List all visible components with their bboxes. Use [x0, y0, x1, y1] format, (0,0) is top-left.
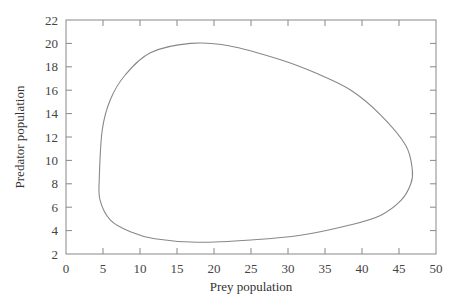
plot-frame — [66, 20, 436, 254]
y-axis-title: Predator population — [12, 85, 27, 188]
y-tick-label: 18 — [45, 59, 58, 74]
x-tick-label: 50 — [430, 261, 443, 276]
x-tick-label: 20 — [208, 261, 221, 276]
y-tick-label: 20 — [45, 36, 58, 51]
x-tick-label: 5 — [100, 261, 107, 276]
y-tick-label: 22 — [45, 13, 58, 28]
phase-plot: 05101520253035404550 246810121416182022 … — [0, 0, 463, 308]
x-tick-label: 40 — [356, 261, 369, 276]
y-tick-label: 8 — [52, 176, 59, 191]
y-tick-label: 10 — [45, 153, 58, 168]
y-tick-label: 12 — [45, 130, 58, 145]
y-tick-label: 16 — [45, 83, 59, 98]
trajectory-curve — [99, 43, 413, 242]
x-axis-title: Prey population — [210, 279, 293, 294]
y-tick-label: 2 — [52, 247, 59, 262]
y-tick-label: 4 — [52, 223, 59, 238]
y-tick-label: 14 — [45, 106, 59, 121]
x-axis-ticks: 05101520253035404550 — [63, 20, 443, 276]
x-tick-label: 0 — [63, 261, 70, 276]
x-tick-label: 45 — [393, 261, 406, 276]
x-tick-label: 15 — [171, 261, 184, 276]
x-tick-label: 35 — [319, 261, 332, 276]
y-tick-label: 6 — [52, 200, 59, 215]
x-tick-label: 25 — [245, 261, 258, 276]
x-tick-label: 10 — [134, 261, 147, 276]
x-tick-label: 30 — [282, 261, 295, 276]
y-axis-ticks: 246810121416182022 — [45, 13, 436, 262]
